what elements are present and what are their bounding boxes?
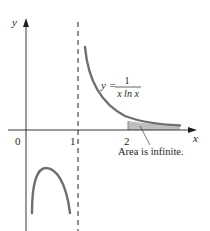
y-axis-arrow-icon [23, 18, 29, 27]
annotation-text: Area is infinite. [118, 146, 184, 157]
equation-lhs: y = [100, 79, 116, 91]
equation-denominator: x ln x [116, 88, 139, 99]
curve-left-branch [32, 168, 70, 213]
x-axis-label: x [192, 132, 198, 144]
tick-label-1: 1 [70, 135, 76, 147]
equation-numerator: 1 [125, 75, 130, 86]
improper-integral-figure: y x 0 1 2 y = 1 x ln x Area is infinite. [0, 0, 210, 231]
curve-right-branch [85, 47, 180, 125]
origin-label: 0 [15, 135, 21, 147]
y-axis-label: y [11, 16, 17, 28]
